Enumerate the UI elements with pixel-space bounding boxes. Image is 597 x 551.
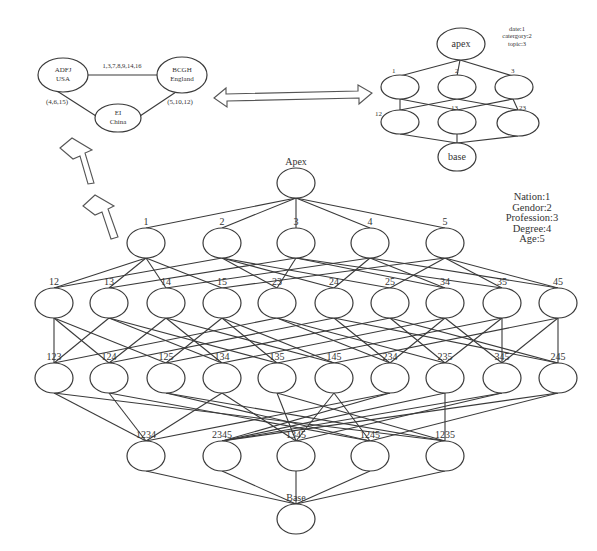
node-label: 4 [368,216,373,227]
lattice-node [426,441,464,471]
lattice-node [147,363,185,393]
node-label: 124 [102,351,117,362]
lattice-node [203,288,241,318]
legend-line: Nation:1 [514,191,551,202]
node-label: 14 [161,276,171,287]
node-label: 34 [440,276,450,287]
legend-line: topic:3 [508,40,526,47]
lattice-node [426,363,464,393]
lattice-node [351,441,389,471]
main-legend: Nation:1 Gendor:2 Profession:3 Degree:4 … [506,191,559,244]
lattice-node [483,288,521,318]
node-label: 125 [159,351,174,362]
node-usa: ADFJ USA [38,58,88,92]
node-label: 123 [47,351,62,362]
small-lattice-node [438,110,476,134]
svg-text:23: 23 [519,104,527,112]
lattice-node [127,441,165,471]
node-label: 234 [383,351,398,362]
lattice-node [258,288,296,318]
lattice-node [371,363,409,393]
svg-text:England: England [170,75,194,83]
small-base-label: base [448,151,466,162]
svg-text:China: China [110,118,128,126]
svg-text:BCGH: BCGH [172,66,191,74]
node-label: 15 [217,276,227,287]
node-label: Base [286,492,306,503]
svg-text:1: 1 [392,67,396,75]
small-lattice-node [381,110,419,134]
node-label: 2345 [212,429,232,440]
up-arrow-icon [83,195,118,239]
lattice-node [315,288,353,318]
lattice-node [203,441,241,471]
legend-line: catergory:2 [502,32,531,39]
node-label: 2 [220,216,225,227]
node-label: 5 [443,216,448,227]
lattice-node [371,288,409,318]
svg-text:ADFJ: ADFJ [55,66,72,74]
node-england: BCGH England [157,57,207,93]
edge-label-usa-china: (4,6,15) [46,98,69,106]
node-label: Apex [285,156,307,167]
lattice-node [277,228,315,258]
lattice-node [35,363,73,393]
lattice-node [539,363,577,393]
small-lattice-node [381,75,419,99]
edge-label-usa-england: 1,3,7,8,9,14,16 [103,62,143,69]
node-label: 1 [144,216,149,227]
lattice-node [315,363,353,393]
small-apex-label: apex [452,38,471,49]
country-graph: 1,3,7,8,9,14,16 (4,6,15) (5,10,12) ADFJ … [38,57,207,132]
lattice-node [127,228,165,258]
node-label: 45 [553,276,563,287]
base-node [277,504,315,534]
legend-line: date:1 [509,25,525,32]
lattice-node [90,363,128,393]
small-lattice-node [495,75,533,99]
node-label: 1245 [360,429,380,440]
node-label: 24 [329,276,339,287]
node-label: 25 [385,276,395,287]
legend-line: Age:5 [519,233,545,244]
node-label: 23 [272,276,282,287]
node-label: 1345 [286,429,306,440]
legend-line: Profession:3 [506,212,559,223]
svg-text:3: 3 [511,67,515,75]
node-label: 35 [497,276,507,287]
edge-label-england-china: (5,10,12) [167,98,193,106]
lattice-node [277,441,315,471]
node-label: 13 [104,276,114,287]
node-label: 134 [215,351,230,362]
up-arrow-icon [60,138,94,184]
lattice-node [426,228,464,258]
node-label: 145 [327,351,342,362]
main-lattice-nodes: Apex123451213141523242534354512312412513… [35,156,577,534]
svg-text:USA: USA [56,75,70,83]
node-label: 12 [49,276,59,287]
small-lattice-node [438,75,476,99]
node-china: EI China [95,104,141,132]
lattice-node [426,288,464,318]
lattice-node [483,363,521,393]
lattice-node [35,288,73,318]
lattice-node [203,228,241,258]
lattice-node [539,288,577,318]
bidirectional-arrow-icon [214,85,372,107]
small-lattice: apex 1 2 3 12 13 23 base date:1 catergor… [375,25,539,171]
node-label: 135 [270,351,285,362]
small-lattice-node [497,110,539,136]
lattice-node [351,228,389,258]
lattice-node [258,363,296,393]
node-label: 3 [294,216,299,227]
node-label: 245 [551,351,566,362]
lattice-node [147,288,185,318]
svg-text:EI: EI [115,109,122,117]
svg-text:2: 2 [455,67,459,75]
lattice-diagram: 1,3,7,8,9,14,16 (4,6,15) (5,10,12) ADFJ … [0,0,597,551]
lattice-node [203,363,241,393]
svg-text:12: 12 [375,110,383,118]
node-label: 1235 [435,429,455,440]
svg-text:13: 13 [451,104,459,112]
apex-node [277,168,315,198]
